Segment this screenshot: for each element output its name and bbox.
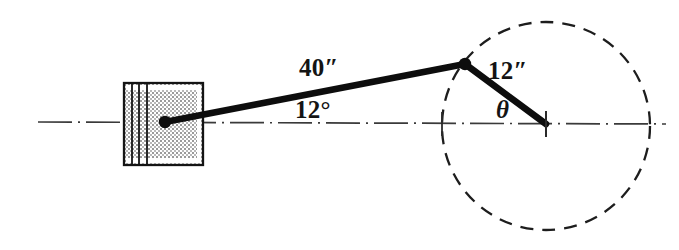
connecting-rod-length-label: 40″ <box>299 55 338 80</box>
connecting-rod-angle-label: 12° <box>295 97 331 122</box>
crank-angle-theta-label: θ <box>496 97 509 122</box>
slider-block-inner-gap-bottom <box>126 158 201 163</box>
mechanism-diagram-figure: 40″ 12° 12″ θ <box>0 0 679 250</box>
slider-pin-joint <box>159 116 171 128</box>
crank-length-label: 12″ <box>488 58 527 83</box>
slider-block-inner-gap-right <box>197 85 201 163</box>
slider-block-inner-gap-top <box>126 85 201 90</box>
crank-pin-joint <box>459 58 471 70</box>
diagram-canvas <box>0 0 679 250</box>
